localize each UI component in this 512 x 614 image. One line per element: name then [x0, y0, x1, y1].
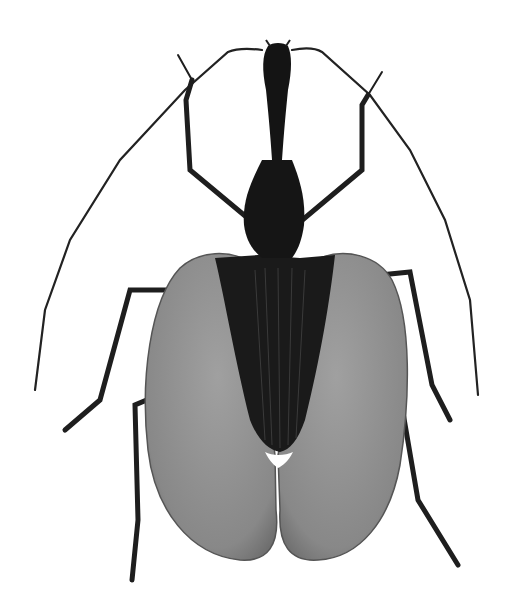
- head: [263, 43, 291, 160]
- prothorax: [244, 160, 305, 258]
- photo-canvas: [0, 0, 512, 614]
- beetle-illustration: [0, 0, 512, 614]
